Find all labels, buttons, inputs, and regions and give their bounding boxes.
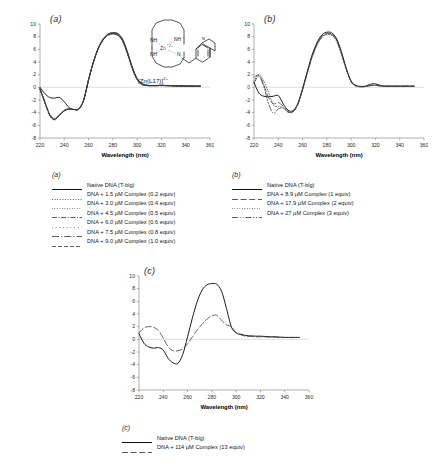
series-line — [254, 32, 414, 111]
legend-line-swatch — [52, 190, 82, 199]
svg-text:340: 340 — [395, 142, 404, 148]
svg-text:340: 340 — [280, 394, 289, 400]
complex-formula-text: [Zn(L17)] — [138, 77, 163, 84]
legend-line-swatch — [122, 443, 152, 452]
svg-text:8: 8 — [247, 33, 250, 39]
svg-text:10: 10 — [30, 21, 36, 27]
svg-text:340: 340 — [181, 142, 190, 148]
svg-text:260: 260 — [84, 142, 93, 148]
legend-line-swatch — [52, 218, 82, 227]
legend-item: Native DNA (T-blg) — [122, 433, 245, 442]
cd-spectra-figure: (a) -8-6-4-20246810220240260280300320340… — [0, 0, 440, 468]
svg-text:220: 220 — [36, 142, 45, 148]
legend-item-label: DNA + 27 µM Complex (3 equiv) — [262, 210, 349, 216]
svg-text:2: 2 — [247, 71, 250, 77]
legend-line-swatch — [52, 180, 82, 189]
panel-c-plot: -8-6-4-20246810220240260280300320340360W… — [108, 264, 318, 424]
svg-text:260: 260 — [298, 142, 307, 148]
svg-text:-8: -8 — [130, 387, 135, 393]
legend-line-swatch — [232, 180, 262, 189]
legend-a-rows: Native DNA (T-blg)DNA + 1.5 µM Complex (… — [52, 180, 175, 246]
legend-item: DNA + 3.0 µM Complex (0.4 equiv) — [52, 199, 175, 208]
legend-line-swatch — [232, 199, 262, 208]
zinc-complex-structure-inset: NH NH NH N Zn 2+ — [132, 14, 218, 104]
svg-text:-4: -4 — [31, 109, 36, 115]
svg-text:360: 360 — [305, 394, 314, 400]
legend-line-swatch — [52, 227, 82, 236]
svg-text:-8: -8 — [31, 135, 36, 141]
legend-panel-b: (b) Native DNA (T-blg)DNA + 8.9 µM Compl… — [232, 171, 354, 218]
svg-text:240: 240 — [60, 142, 69, 148]
nh-label-2: NH — [174, 36, 182, 42]
legend-item: DNA + 27 µM Complex (3 equiv) — [232, 208, 354, 217]
legend-line-swatch — [52, 237, 82, 246]
legend-item: DNA + 8.9 µM Complex (1 equiv) — [232, 189, 354, 198]
svg-text:300: 300 — [347, 142, 356, 148]
legend-item-label: Native DNA (T-blg) — [82, 182, 135, 188]
legend-b-title: (b) — [232, 171, 354, 178]
svg-text:280: 280 — [109, 142, 118, 148]
svg-text:0: 0 — [33, 84, 36, 90]
legend-item: Native DNA (T-blg) — [232, 180, 354, 189]
series-line — [139, 283, 299, 364]
svg-text:2: 2 — [132, 323, 135, 329]
legend-c-title: (c) — [122, 424, 245, 431]
svg-text:360: 360 — [206, 142, 214, 148]
svg-text:360: 360 — [420, 142, 428, 148]
legend-item: DNA + 4.5 µM Complex (0.5 equiv) — [52, 208, 175, 217]
svg-text:-2: -2 — [245, 97, 250, 103]
svg-text:-2: -2 — [130, 349, 135, 355]
panel-b: (b) -8-6-4-20246810220240260280300320340… — [228, 12, 428, 172]
zinc-center-label: Zn — [160, 45, 166, 51]
svg-text:6: 6 — [247, 46, 250, 52]
legend-line-swatch — [52, 199, 82, 208]
svg-text:10: 10 — [244, 21, 250, 27]
svg-text:220: 220 — [250, 142, 259, 148]
svg-text:4: 4 — [247, 59, 250, 65]
svg-text:Wavelength (nm): Wavelength (nm) — [101, 152, 148, 158]
panel-b-label: (b) — [264, 14, 276, 24]
legend-item-label: DNA + 4.5 µM Complex (0.5 equiv) — [82, 210, 175, 216]
svg-text:240: 240 — [274, 142, 283, 148]
legend-item: DNA + 9.0 µM Complex (1.0 equiv) — [52, 236, 175, 245]
svg-text:300: 300 — [232, 394, 241, 400]
svg-text:220: 220 — [135, 394, 144, 400]
svg-text:Wavelength (nm): Wavelength (nm) — [315, 152, 362, 158]
legend-line-swatch — [232, 208, 262, 217]
legend-item: DNA + 6.0 µM Complex (0.6 equiv) — [52, 218, 175, 227]
svg-text:8: 8 — [132, 285, 135, 291]
svg-text:320: 320 — [371, 142, 380, 148]
legend-item-label: Native DNA (T-blg) — [152, 435, 205, 441]
legend-item-label: DNA + 9.0 µM Complex (1.0 equiv) — [82, 238, 175, 244]
svg-text:240: 240 — [159, 394, 168, 400]
svg-text:-6: -6 — [130, 374, 135, 380]
panel-c: (c) -8-6-4-20246810220240260280300320340… — [108, 264, 318, 424]
legend-item: DNA + 114 µM Complex (13 equiv) — [122, 442, 245, 451]
panel-c-label: (c) — [144, 266, 155, 276]
legend-b-rows: Native DNA (T-blg)DNA + 8.9 µM Complex (… — [232, 180, 354, 218]
series-line — [254, 33, 414, 112]
series-line — [254, 34, 414, 113]
svg-text:-2: -2 — [31, 97, 36, 103]
legend-line-swatch — [122, 433, 152, 442]
nh-label-3: NH — [150, 51, 158, 57]
svg-text:0: 0 — [247, 84, 250, 90]
svg-text:10: 10 — [129, 273, 135, 279]
svg-text:Wavelength (nm): Wavelength (nm) — [200, 404, 247, 410]
svg-text:0: 0 — [132, 336, 135, 342]
complex-formula-label: [Zn(L17)]2+ — [138, 76, 168, 84]
svg-text:300: 300 — [133, 142, 142, 148]
svg-text:260: 260 — [183, 394, 192, 400]
series-line — [254, 35, 414, 113]
panel-a-label: (a) — [50, 14, 62, 24]
svg-text:-6: -6 — [31, 122, 36, 128]
svg-text:320: 320 — [157, 142, 166, 148]
n-label-tertiary: N — [177, 51, 181, 57]
legend-item: Native DNA (T-blg) — [52, 180, 175, 189]
svg-text:-4: -4 — [130, 361, 135, 367]
legend-c-rows: Native DNA (T-blg)DNA + 114 µM Complex (… — [122, 433, 245, 452]
legend-item-label: DNA + 6.0 µM Complex (0.6 equiv) — [82, 219, 175, 225]
svg-text:280: 280 — [208, 394, 217, 400]
panel-b-plot: -8-6-4-20246810220240260280300320340360W… — [228, 12, 428, 172]
svg-text:4: 4 — [132, 311, 135, 317]
